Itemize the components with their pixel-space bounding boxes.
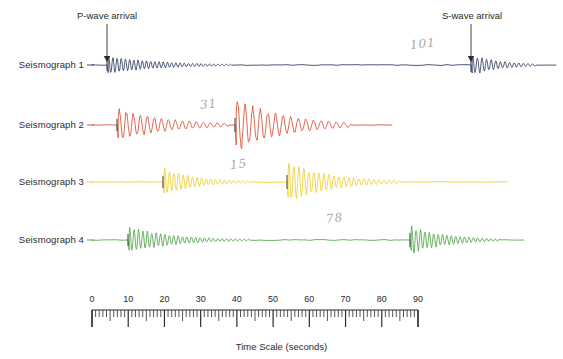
seismogram-trace-3: [92, 163, 508, 199]
seismogram-trace-1: [92, 57, 556, 73]
time-tick-label-70: 70: [335, 294, 357, 304]
handwritten-note-101: 101: [409, 35, 436, 52]
time-tick-label-10: 10: [117, 294, 139, 304]
handwritten-note-31: 31: [199, 96, 218, 112]
time-tick-label-40: 40: [226, 294, 248, 304]
time-tick-label-0: 0: [81, 294, 103, 304]
time-tick-label-50: 50: [262, 294, 284, 304]
time-tick-label-20: 20: [153, 294, 175, 304]
p-wave-arrival-label: P-wave arrival: [77, 10, 137, 21]
trace-label-seismograph-1: Seismograph 1: [8, 59, 84, 70]
time-tick-label-60: 60: [298, 294, 320, 304]
time-tick-label-80: 80: [371, 294, 393, 304]
handwritten-note-78: 78: [325, 210, 344, 226]
trace-label-seismograph-4: Seismograph 4: [8, 234, 84, 245]
seismogram-trace-2: [92, 102, 392, 149]
time-scale-ruler: [92, 310, 418, 327]
trace-label-seismograph-2: Seismograph 2: [8, 119, 84, 130]
seismogram-trace-4: [92, 226, 524, 253]
s-wave-arrival-label: S-wave arrival: [442, 10, 502, 21]
s-wave-arrival-arrow: [468, 24, 474, 62]
time-scale-caption: Time Scale (seconds): [0, 341, 563, 352]
seismogram-canvas: [0, 0, 563, 359]
handwritten-note-15: 15: [229, 156, 248, 172]
p-wave-arrival-arrow: [104, 24, 110, 62]
time-tick-label-30: 30: [190, 294, 212, 304]
time-tick-label-90: 90: [407, 294, 429, 304]
trace-label-seismograph-3: Seismograph 3: [8, 176, 84, 187]
seismograph-figure: Seismograph 1 Seismograph 2 Seismograph …: [0, 0, 563, 359]
